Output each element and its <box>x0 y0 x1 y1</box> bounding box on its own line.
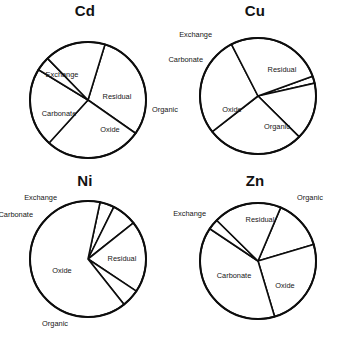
pie-label-ni-organic: Organic <box>42 319 68 328</box>
pie-label-ni-residual: Residual <box>108 254 137 263</box>
pie-label-zn-oxide: Oxide <box>275 281 294 290</box>
pie-svg-zn: ExchangeCarbonateOxideOrganicResidual <box>170 171 340 342</box>
pie-label-zn-exchange: Exchange <box>173 209 206 218</box>
pie-label-cd-oxide: Oxide <box>100 125 119 134</box>
pie-label-cd-residual: Residual <box>103 92 132 101</box>
pie-label-ni-carbonate: Carbonate <box>0 210 33 219</box>
pie-panel-cd: Cd ExchangeCarbonateOxideOrganicResidual <box>0 0 170 171</box>
pie-label-cu-residual: Residual <box>268 65 297 74</box>
pie-label-cu-carbonate: Carbonate <box>168 55 203 64</box>
pie-canvas-zn: ExchangeCarbonateOxideOrganicResidual <box>170 171 340 342</box>
pie-label-cu-exchange: Exchange <box>179 30 212 39</box>
pie-chart-figure: Cd ExchangeCarbonateOxideOrganicResidual… <box>0 0 341 342</box>
pie-canvas-ni: ExchangeCarbonateOxideOrganicResidual <box>0 171 170 342</box>
pie-canvas-cu: ExchangeCarbonateOxideOrganicResidual <box>170 0 340 171</box>
pie-label-zn-organic: Organic <box>297 193 323 202</box>
pie-svg-cu: ExchangeCarbonateOxideOrganicResidual <box>170 0 340 171</box>
pie-panel-zn: Zn ExchangeCarbonateOxideOrganicResidual <box>170 171 340 342</box>
pie-svg-cd: ExchangeCarbonateOxideOrganicResidual <box>0 0 170 171</box>
pie-label-ni-exchange: Exchange <box>24 193 57 202</box>
pie-canvas-cd: ExchangeCarbonateOxideOrganicResidual <box>0 0 170 171</box>
pie-panel-ni: Ni ExchangeCarbonateOxideOrganicResidual <box>0 171 170 342</box>
pie-label-cd-carbonate: Carbonate <box>42 109 77 118</box>
pie-label-cu-organic: Organic <box>264 122 290 131</box>
pie-label-ni-oxide: Oxide <box>52 266 71 275</box>
pie-panel-cu: Cu ExchangeCarbonateOxideOrganicResidual <box>170 0 340 171</box>
pie-label-zn-carbonate: Carbonate <box>217 271 252 280</box>
pie-svg-ni: ExchangeCarbonateOxideOrganicResidual <box>0 171 170 342</box>
pie-label-cd-exchange: Exchange <box>46 70 79 79</box>
pie-label-cu-oxide: Oxide <box>222 105 241 114</box>
pie-label-zn-residual: Residual <box>246 215 275 224</box>
